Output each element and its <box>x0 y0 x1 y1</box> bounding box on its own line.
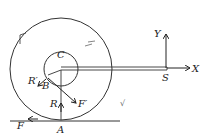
right-tick-mark <box>85 41 95 46</box>
label-a: A <box>56 124 64 135</box>
label-r: R <box>49 98 58 109</box>
label-b: B <box>41 80 49 91</box>
b-line <box>48 70 61 75</box>
label-c: C <box>57 49 65 60</box>
label-f: F <box>16 120 25 131</box>
wheel-force-diagram: C S Y X A B R R′ F F′ √ <box>0 0 210 138</box>
ground-mark: √ <box>120 99 126 108</box>
label-x: X <box>191 63 200 74</box>
label-f-prime: F′ <box>77 98 88 109</box>
label-s: S <box>162 72 169 83</box>
label-r-prime: R′ <box>27 75 39 86</box>
label-y: Y <box>154 28 162 39</box>
